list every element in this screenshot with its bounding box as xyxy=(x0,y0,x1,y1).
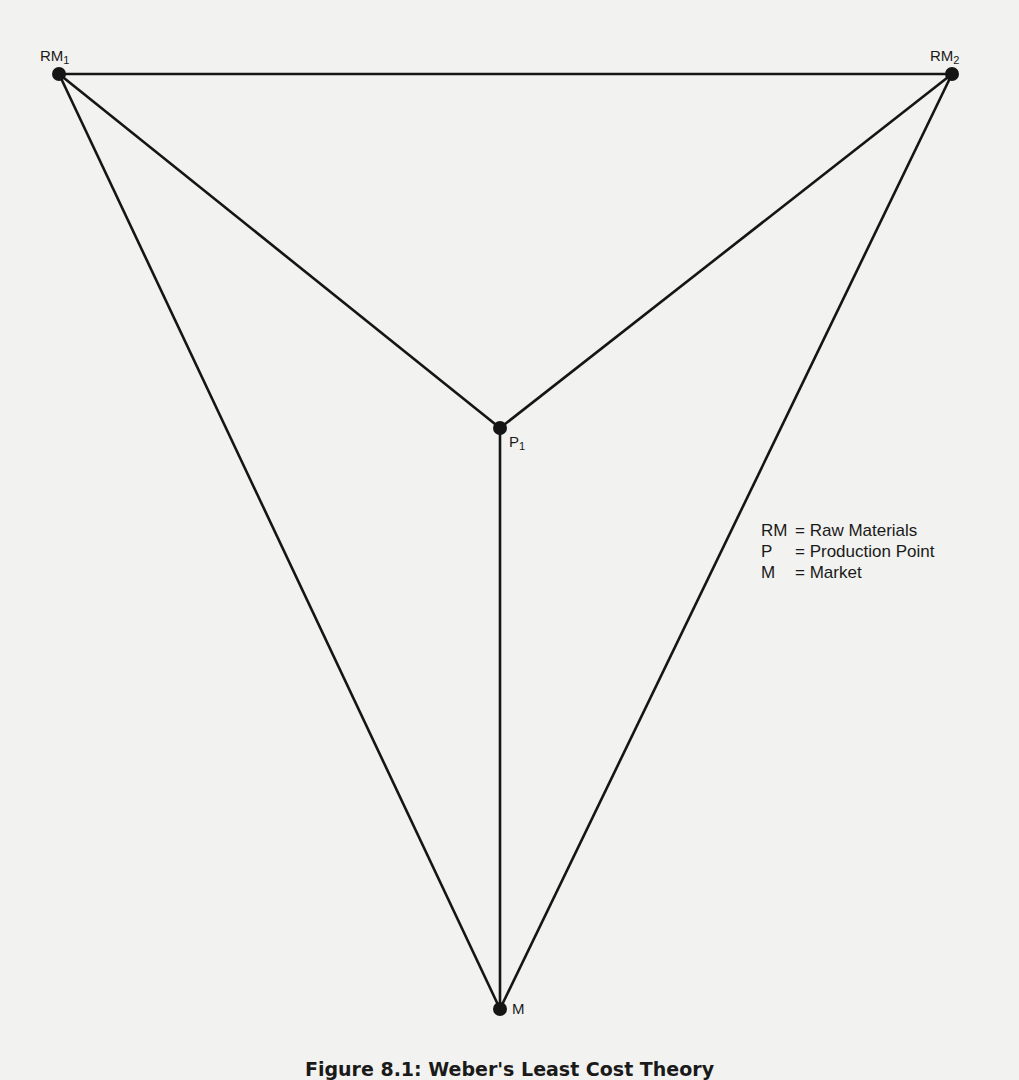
node-label-text: M xyxy=(512,1000,525,1017)
edge-rm2-p1 xyxy=(500,74,952,428)
node-m-dot xyxy=(493,1002,507,1016)
node-label-rm1: RM1 xyxy=(40,47,69,66)
node-label-m: M xyxy=(512,1000,525,1017)
legend-value: = Production Point xyxy=(795,541,934,562)
legend-value: = Market xyxy=(795,562,862,583)
node-label-rm2: RM2 xyxy=(930,47,959,66)
node-label-subscript: 1 xyxy=(63,54,69,66)
node-label-subscript: 1 xyxy=(519,440,525,452)
legend-key: RM xyxy=(761,520,795,541)
node-label-text: RM xyxy=(40,47,63,64)
edge-rm1-m xyxy=(59,74,500,1009)
node-label-subscript: 2 xyxy=(953,54,959,66)
legend-key: P xyxy=(761,541,795,562)
legend: RM = Raw Materials P = Production Point … xyxy=(761,520,934,583)
legend-value: = Raw Materials xyxy=(795,520,917,541)
figure-caption: Figure 8.1: Weber's Least Cost Theory xyxy=(0,1058,1019,1080)
node-rm2-dot xyxy=(945,67,959,81)
node-label-text: P xyxy=(509,433,519,450)
node-rm1-dot xyxy=(52,67,66,81)
legend-item-market: M = Market xyxy=(761,562,934,583)
legend-item-production-point: P = Production Point xyxy=(761,541,934,562)
node-label-text: RM xyxy=(930,47,953,64)
legend-item-raw-materials: RM = Raw Materials xyxy=(761,520,934,541)
node-label-p1: P1 xyxy=(509,433,525,452)
edge-rm1-p1 xyxy=(59,74,500,428)
legend-key: M xyxy=(761,562,795,583)
node-p1-dot xyxy=(493,421,507,435)
